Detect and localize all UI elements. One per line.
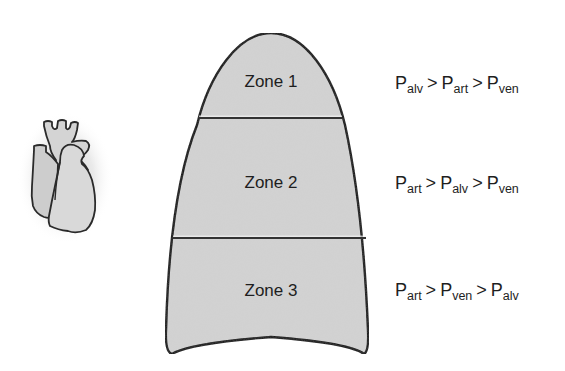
heart-icon [17, 112, 113, 244]
zone-1-pressure-relation: Palv>Part>Pven [395, 73, 519, 96]
zone-2-pressure-relation: Part>Palv>Pven [395, 173, 519, 196]
zone-3-label: Zone 3 [245, 281, 298, 301]
zone-2-label: Zone 2 [245, 173, 298, 193]
zone-1-label: Zone 1 [245, 72, 298, 92]
zone-3-pressure-relation: Part>Pven>Palv [395, 280, 519, 303]
